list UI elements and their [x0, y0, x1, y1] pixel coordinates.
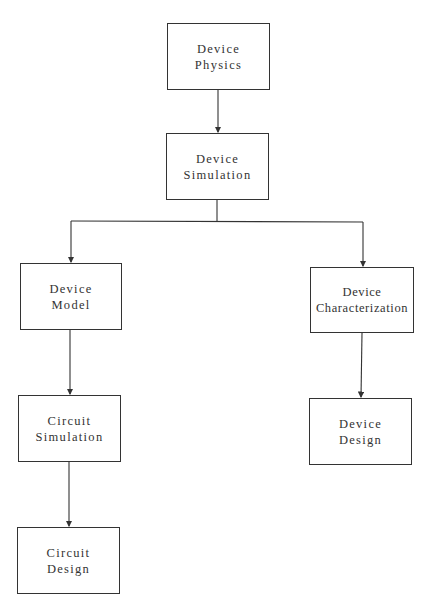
- node-circuit-simulation: Circuit Simulation: [18, 395, 121, 462]
- node-label-line2: Simulation: [36, 429, 104, 445]
- node-label-line1: Device: [49, 281, 92, 297]
- node-label-line1: Device: [343, 284, 382, 300]
- edge-characterization-to-device-design: [361, 333, 362, 397]
- node-label-line2: Design: [47, 561, 90, 577]
- node-label-line2: Model: [51, 297, 90, 313]
- flowchart-canvas: Device Physics Device Simulation Device …: [0, 0, 431, 609]
- node-circuit-design: Circuit Design: [17, 527, 120, 594]
- node-label-line1: Device: [339, 416, 382, 432]
- node-device-model: Device Model: [20, 263, 122, 330]
- node-device-simulation: Device Simulation: [166, 133, 269, 200]
- node-label-line1: Circuit: [47, 545, 91, 561]
- node-label-line2: Design: [339, 432, 382, 448]
- node-label-line1: Device: [197, 41, 240, 57]
- node-label-line2: Simulation: [184, 167, 252, 183]
- node-device-characterization: Device Characterization: [310, 267, 414, 333]
- node-label-line2: Characterization: [316, 300, 408, 316]
- node-label-line1: Circuit: [48, 413, 92, 429]
- edge-branch-horizontal: [71, 221, 363, 222]
- node-label-line2: Physics: [195, 57, 242, 73]
- node-device-physics: Device Physics: [167, 23, 270, 90]
- node-label-line1: Device: [196, 151, 239, 167]
- node-device-design: Device Design: [309, 398, 412, 465]
